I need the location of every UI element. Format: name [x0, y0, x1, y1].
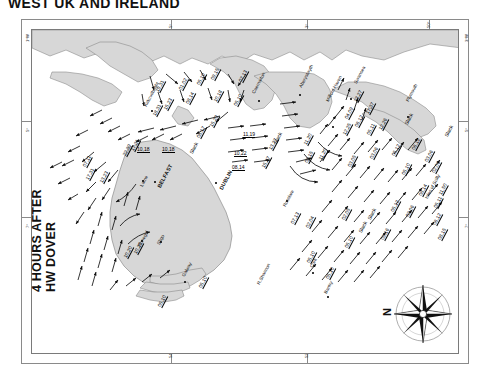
tidal-rate-label: 08,14 — [232, 164, 245, 171]
degree-label-top: 3° — [304, 24, 309, 28]
tidal-rate-label: 10,18 — [162, 146, 175, 153]
place-marker-dot — [215, 182, 217, 184]
compass-north-label: N — [381, 308, 393, 316]
tidal-rate-label: 11,19 — [243, 131, 255, 138]
degree-label-right: 3°W — [464, 34, 469, 42]
caption-line-1: 4 HOURS AFTER — [30, 189, 44, 292]
degree-label-left: 5° — [25, 128, 30, 132]
place-marker-dot — [258, 100, 260, 102]
place-marker-dot — [299, 94, 301, 96]
tide-phase-caption: 4 HOURS AFTER HW DOVER — [30, 189, 58, 292]
degree-label-top: 5° — [168, 24, 173, 28]
compass-rose-icon — [392, 283, 454, 345]
place-marker-dot — [327, 296, 329, 298]
tidal-rate-label: 10,22 — [234, 150, 247, 157]
graticule-tick-left — [22, 121, 31, 122]
degree-label-left: 1°W — [25, 34, 30, 42]
degree-label-right: 5° — [464, 128, 469, 132]
tidal-rate-label: 10,18 — [137, 146, 150, 153]
caption-line-2: HW DOVER — [44, 189, 58, 292]
degree-label-right: 7° — [464, 224, 469, 228]
graticule-tick-right — [459, 121, 468, 122]
place-marker-dot — [332, 126, 334, 128]
degree-label-top: 50° — [426, 22, 431, 28]
page-title: WEST UK AND IRELAND — [8, 0, 180, 11]
place-marker-dot — [154, 181, 156, 183]
graticule-tick-right — [459, 217, 468, 218]
place-marker-dot — [312, 272, 314, 274]
place-marker-dot — [184, 281, 186, 283]
